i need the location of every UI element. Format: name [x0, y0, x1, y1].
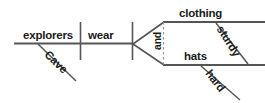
subject-label: explorers [23, 30, 73, 42]
conjunction-label: and [152, 32, 163, 50]
object-label-hats: hats [184, 51, 207, 63]
verb-label: wear [88, 30, 113, 42]
object-label-clothing: clothing [179, 8, 222, 20]
sentence-diagram: explorers Cave wear and clothing sturdy … [0, 0, 265, 103]
